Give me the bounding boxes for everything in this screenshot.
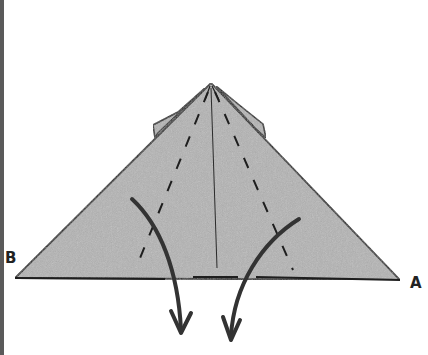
origami-diagram <box>0 0 428 355</box>
corner-label-a: A <box>410 276 422 291</box>
corner-label-b: B <box>5 251 16 266</box>
paper-triangle <box>15 83 400 280</box>
